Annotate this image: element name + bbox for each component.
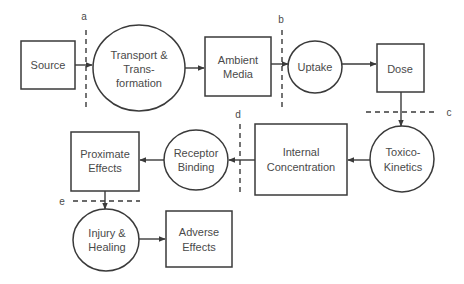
proximate-label-line2: Effects xyxy=(88,162,122,174)
transport-label-line1: Transport & xyxy=(110,49,168,61)
receptor-label-line2: Binding xyxy=(178,161,215,173)
node-injury-healing: Injury & Healing xyxy=(73,209,139,271)
uptake-label: Uptake xyxy=(298,61,333,73)
node-ambient-media: Ambient Media xyxy=(205,37,271,96)
receptor-label-line1: Receptor xyxy=(174,147,219,159)
adverse-label-line2: Effects xyxy=(182,241,216,253)
boundary-d-label: d xyxy=(235,109,241,120)
node-dose: Dose xyxy=(377,44,424,92)
toxicokinetics-ellipse xyxy=(370,126,434,192)
boundary-c-label: c xyxy=(447,107,452,118)
toxicokinetics-label-line1: Toxico- xyxy=(386,146,421,158)
node-transport: Transport & Trans- formation xyxy=(93,25,185,111)
source-label: Source xyxy=(31,59,66,71)
injury-label-line1: Injury & xyxy=(88,227,126,239)
receptor-binding-ellipse xyxy=(164,130,228,190)
node-internal-concentration: Internal Concentration xyxy=(255,124,347,195)
adverse-effects-box xyxy=(166,211,232,267)
toxicokinetics-label-line2: Kinetics xyxy=(384,161,423,173)
transport-label-line3: formation xyxy=(116,77,162,89)
node-receptor-binding: Receptor Binding xyxy=(164,130,228,190)
node-adverse-effects: Adverse Effects xyxy=(166,211,232,267)
boundary-b-label: b xyxy=(278,14,284,25)
node-source: Source xyxy=(21,41,75,89)
internal-label-line2: Concentration xyxy=(267,161,336,173)
proximate-label-line1: Proximate xyxy=(80,148,130,160)
dose-label: Dose xyxy=(387,63,413,75)
transport-label-line2: Trans- xyxy=(123,63,155,75)
ambient-label-line1: Ambient xyxy=(218,54,258,66)
node-uptake: Uptake xyxy=(288,41,342,93)
injury-label-line2: Healing xyxy=(88,241,125,253)
ambient-media-box xyxy=(205,37,271,96)
boundary-e-label: e xyxy=(59,196,65,207)
ambient-label-line2: Media xyxy=(223,68,254,80)
internal-label-line1: Internal xyxy=(283,146,320,158)
internal-concentration-box xyxy=(255,124,347,195)
injury-healing-ellipse xyxy=(73,209,139,271)
node-toxicokinetics: Toxico- Kinetics xyxy=(370,126,434,192)
exposure-effects-diagram: a b c d e Source Transport & Trans- form… xyxy=(0,0,464,284)
boundary-a-label: a xyxy=(81,11,87,22)
node-proximate-effects: Proximate Effects xyxy=(71,132,139,191)
adverse-label-line1: Adverse xyxy=(179,226,219,238)
